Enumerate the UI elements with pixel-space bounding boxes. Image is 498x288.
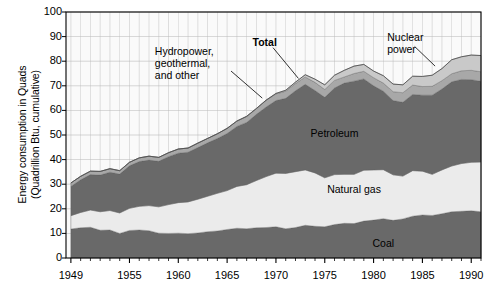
x-tick-1949: 1949 bbox=[59, 270, 83, 281]
x-tick-1970: 1970 bbox=[264, 270, 288, 281]
x-tick-1985: 1985 bbox=[410, 270, 434, 281]
x-tick-1965: 1965 bbox=[215, 270, 239, 281]
x-tick-1975: 1975 bbox=[313, 270, 337, 281]
series-label-petroleum: Petroleum bbox=[311, 128, 359, 139]
x-tick-1955: 1955 bbox=[117, 270, 141, 281]
annotation-total: Total bbox=[253, 36, 277, 48]
series-label-natural-gas: Natural gas bbox=[327, 184, 381, 195]
series-label-nuclear: Nuclear power bbox=[387, 31, 423, 55]
energy-consumption-area-chart: Energy consumption in Quads (Quadrillion… bbox=[0, 0, 498, 288]
x-tick-1990: 1990 bbox=[459, 270, 483, 281]
x-tick-1980: 1980 bbox=[361, 270, 385, 281]
x-tick-1960: 1960 bbox=[166, 270, 190, 281]
x-axis-tick-labels: 194919551960196519701975198019851990 bbox=[0, 262, 498, 282]
series-label-hydropower: Hydropower, geothermal, and other bbox=[155, 45, 214, 81]
series-label-coal: Coal bbox=[373, 238, 395, 249]
